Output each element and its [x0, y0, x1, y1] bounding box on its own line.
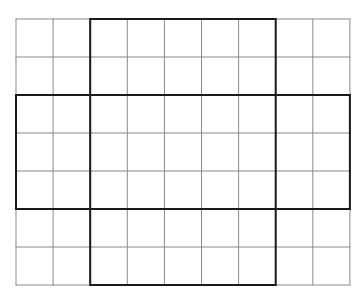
grid-lines: [16, 19, 350, 285]
grid-figure: [0, 0, 363, 302]
region-horizontal-band: [16, 95, 350, 209]
region-vertical-band: [90, 19, 276, 285]
highlighted-regions: [16, 19, 350, 285]
grid-canvas: [0, 0, 363, 302]
